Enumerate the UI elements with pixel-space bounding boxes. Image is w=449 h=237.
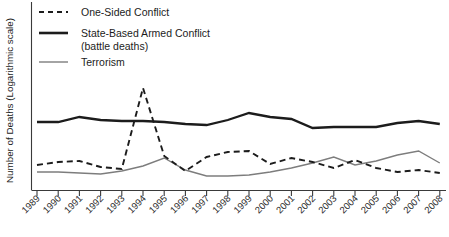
x-axis-tick-label: 1997 [189, 193, 212, 216]
x-axis-tick-label: 2007 [401, 193, 424, 216]
series-line-terrorism [37, 151, 440, 176]
x-axis-tick-label: 2006 [380, 193, 403, 216]
x-axis-tick-label: 1990 [40, 193, 63, 216]
x-axis-tick-label: 1992 [83, 193, 106, 216]
x-axis-tick-label: 1994 [125, 193, 148, 216]
chart-legend: One-Sided ConflictState-Based Armed Conf… [39, 6, 210, 68]
x-axis-tick-label: 1991 [62, 193, 85, 216]
x-axis-tick-label: 2001 [274, 193, 297, 216]
legend-label: One-Sided Conflict [81, 6, 169, 18]
x-axis-tick-label: 1993 [104, 193, 127, 216]
chart-figure: Number of Deaths (Logarithmic scale) One… [0, 0, 449, 237]
x-axis-tick-label: 2004 [337, 193, 360, 216]
x-axis-tick-label: 1999 [231, 193, 254, 216]
x-axis-tick-label: 2008 [422, 193, 445, 216]
x-axis-tick-label: 1996 [168, 193, 191, 216]
series-line-state-based-armed-conflict-battle-deaths [37, 113, 440, 128]
x-axis-tick-label: 1998 [210, 193, 233, 216]
x-axis-tick-label: 2002 [295, 193, 318, 216]
x-axis-tick-label: 1995 [146, 193, 169, 216]
line-chart-svg: Number of Deaths (Logarithmic scale) One… [0, 0, 449, 237]
x-axis-tick-label: 2003 [316, 193, 339, 216]
chart-series-group [37, 88, 440, 176]
legend-label-second-line: (battle deaths) [81, 40, 148, 52]
x-axis-tick-label: 2005 [358, 193, 381, 216]
legend-label: Terrorism [81, 56, 125, 68]
x-axis-tick-label: 1989 [19, 193, 42, 216]
x-axis-ticks: 1989199019911992199319941995199619971998… [19, 191, 445, 216]
y-axis-title: Number of Deaths (Logarithmic scale) [4, 18, 15, 183]
legend-label: State-Based Armed Conflict [81, 27, 210, 39]
x-axis-tick-label: 2000 [252, 193, 275, 216]
